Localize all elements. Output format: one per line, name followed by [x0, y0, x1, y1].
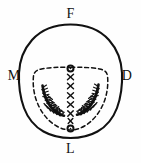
left-hatch-cluster — [42, 85, 64, 116]
cross-marker-6 — [68, 119, 73, 124]
circle-marker-bottom — [68, 126, 74, 132]
cross-marker-5 — [68, 111, 73, 116]
cross-marker-4 — [68, 102, 74, 108]
label-mesial-m: M — [6, 69, 22, 83]
cross-marker-3 — [68, 93, 74, 99]
label-distal-d: D — [119, 69, 135, 83]
cross-marker-2 — [68, 83, 74, 89]
cross-marker-group — [68, 74, 74, 123]
figure-container: F M D L — [0, 0, 141, 163]
label-lingual-l: L — [0, 142, 141, 156]
right-hatch-cluster — [77, 84, 99, 115]
cross-marker-1 — [68, 74, 74, 80]
label-facial-f: F — [0, 7, 141, 21]
circle-marker-top — [68, 66, 74, 72]
